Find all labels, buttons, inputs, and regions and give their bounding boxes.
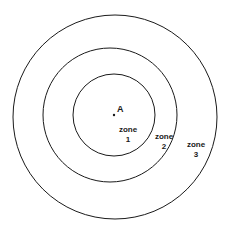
point-a-label: A	[117, 104, 124, 114]
zone-3-boundary	[13, 15, 217, 219]
zone-3-number: 3	[194, 150, 199, 159]
point-a-dot	[113, 114, 115, 116]
zone-1-number: 1	[126, 135, 131, 144]
zones-diagram: A zone 1 zone 2 zone 3	[0, 0, 230, 228]
zone-2-boundary	[43, 48, 177, 182]
zone-3-name: zone	[187, 140, 206, 149]
zone-1-name: zone	[119, 125, 138, 134]
zone-2-name: zone	[155, 132, 174, 141]
zone-2-number: 2	[162, 142, 167, 151]
